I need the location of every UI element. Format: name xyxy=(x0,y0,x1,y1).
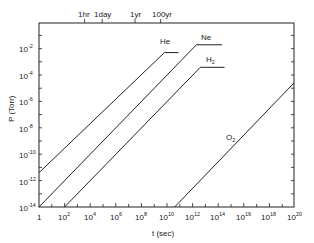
svg-text:102: 102 xyxy=(58,211,70,222)
series-ne-label: Ne xyxy=(201,33,212,42)
y-axis-title: P (Torr) xyxy=(7,95,16,122)
svg-text:1014: 1014 xyxy=(210,211,225,222)
top-label-1hr: 1hr xyxy=(78,10,90,19)
series-h2-label: H2 xyxy=(206,55,215,65)
svg-text:1010: 1010 xyxy=(159,211,174,222)
svg-text:1: 1 xyxy=(37,213,42,222)
svg-text:10-4: 10-4 xyxy=(19,70,33,81)
top-label-100yr: 100yr xyxy=(152,10,172,19)
svg-text:1012: 1012 xyxy=(185,211,200,222)
series-h2-line xyxy=(65,67,225,207)
series-ne-line xyxy=(39,45,222,207)
svg-text:104: 104 xyxy=(84,211,96,222)
svg-text:1018: 1018 xyxy=(261,211,276,222)
top-axis-ticks xyxy=(85,19,161,23)
series-o2-line xyxy=(175,83,294,207)
svg-text:108: 108 xyxy=(135,211,147,222)
series-he-label: He xyxy=(160,37,171,46)
x-tick-labels: 1 102 104 106 108 1010 1012 1014 1016 10… xyxy=(37,211,302,222)
plot-frame xyxy=(39,23,294,207)
svg-text:10-10: 10-10 xyxy=(19,149,36,160)
svg-text:10-8: 10-8 xyxy=(19,123,33,134)
y-tick-labels: 10-2 10-4 10-6 10-8 10-10 10-12 10-14 xyxy=(19,43,36,213)
x-axis-title: t (sec) xyxy=(152,229,175,238)
svg-text:10-6: 10-6 xyxy=(19,96,33,107)
top-label-1day: 1day xyxy=(94,10,111,19)
permeation-chart: He Ne H2 O2 1hr 1day 1yr 100yr 1 102 104… xyxy=(0,0,314,243)
svg-text:106: 106 xyxy=(110,211,122,222)
x-axis-ticks xyxy=(52,203,282,207)
svg-text:10-2: 10-2 xyxy=(19,43,33,54)
top-label-1yr: 1yr xyxy=(130,10,141,19)
y-axis-ticks xyxy=(39,35,294,193)
svg-text:10-14: 10-14 xyxy=(19,202,36,213)
svg-text:10-12: 10-12 xyxy=(19,176,36,187)
svg-text:1020: 1020 xyxy=(287,211,302,222)
series-he-line xyxy=(39,53,179,173)
svg-text:1016: 1016 xyxy=(236,211,251,222)
series-o2-label: O2 xyxy=(226,133,235,143)
